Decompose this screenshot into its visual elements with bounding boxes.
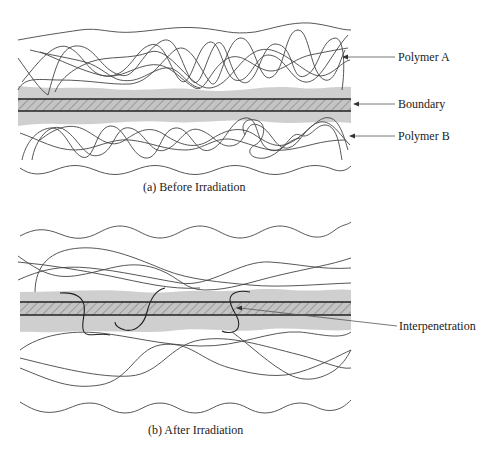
- panel-after-irradiation: Interpenetration (b) After Irradiation: [18, 222, 476, 437]
- panel-before-irradiation: Polymer A Boundary Polymer B (a) Before …: [18, 23, 450, 194]
- arrowhead-boundary: [353, 102, 359, 107]
- polymer-b-outer-chain: [20, 166, 351, 175]
- upper-chains-b: [18, 248, 351, 293]
- label-polymer-b: Polymer B: [349, 129, 450, 143]
- arrowhead-polymer-b: [349, 134, 355, 139]
- boundary-layer-a: [18, 99, 351, 111]
- polymer-irradiation-diagram: Polymer A Boundary Polymer B (a) Before …: [0, 0, 493, 454]
- label-boundary: Boundary: [353, 97, 445, 111]
- polymer-a-label: Polymer A: [398, 50, 450, 64]
- boundary-label: Boundary: [398, 97, 445, 111]
- caption-before-irradiation: (a) Before Irradiation: [143, 180, 246, 194]
- interpenetration-label: Interpenetration: [399, 319, 476, 333]
- polymer-b-label: Polymer B: [398, 129, 450, 143]
- bottom-outer-chain-b: [20, 400, 351, 413]
- lower-chains-b: [20, 332, 351, 386]
- label-polymer-a: Polymer A: [342, 50, 450, 64]
- top-outer-chain-b: [20, 222, 351, 238]
- caption-after-irradiation: (b) After Irradiation: [148, 423, 243, 437]
- boundary-layer-b: [20, 302, 351, 315]
- polymer-a-chains: [18, 30, 350, 95]
